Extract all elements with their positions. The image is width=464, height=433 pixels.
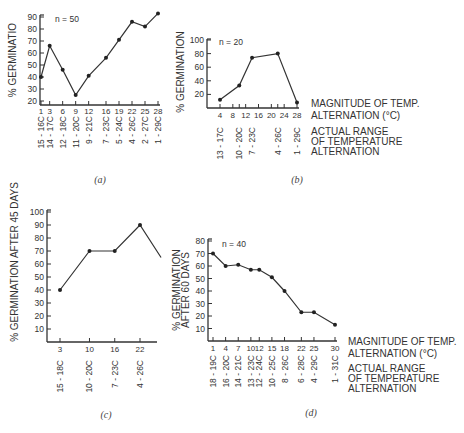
y-tick-label: 30 (28, 84, 38, 94)
range-label: 10 - 20C (234, 127, 244, 160)
x-tick-label: 28 (293, 111, 302, 120)
range-label: 14 - 17C (45, 116, 55, 149)
range-label: 2 - 27C (140, 116, 150, 144)
data-point (87, 74, 91, 78)
x-tick-label: 9 (73, 107, 78, 116)
svg-text:ALTERNATION (°C): ALTERNATION (°C) (348, 348, 437, 359)
axis-side-labels: MAGNITUDE OF TEMP.ALTERNATION (°C)ACTUAL… (348, 336, 457, 394)
y-tick-label: 40 (195, 76, 205, 86)
x-tick-label: 16 (254, 111, 263, 120)
y-axis-label: % GERMINATIO (7, 23, 18, 97)
x-tick-label: 20 (267, 111, 276, 120)
x-tick-label: 28 (154, 107, 163, 116)
range-label: 4 - 26C (135, 360, 145, 388)
data-point (218, 98, 222, 102)
range-label: 1 - 29C (153, 116, 163, 144)
y-tick-label: 70 (196, 249, 206, 259)
y-tick-label: 60 (28, 48, 38, 58)
y-tick-label: 90 (28, 12, 38, 22)
y-tick-label: 80 (195, 49, 205, 59)
y-tick-label: 60 (195, 62, 205, 72)
x-tick-label: 1 (211, 344, 216, 353)
range-label: 14 - 21C (233, 355, 243, 388)
svg-text:MAGNITUDE OF TEMP.: MAGNITUDE OF TEMP. (348, 336, 457, 347)
range-label: 7 - 23C (110, 360, 120, 388)
x-tick-label: 12 (84, 107, 93, 116)
x-tick-label: 15 (267, 344, 276, 353)
x-tick-label: 12 (241, 111, 250, 120)
panel-caption: (d) (305, 407, 317, 419)
range-label: 6 - 28C (296, 355, 306, 383)
sample-size-annotation: n = 20 (219, 37, 243, 47)
sample-size-annotation: n = 40 (222, 239, 246, 249)
y-tick-label: 100 (30, 207, 44, 217)
range-label: 1 - 29C (292, 127, 302, 155)
y-tick-label: 10 (196, 324, 206, 334)
y-tick-label: 70 (28, 36, 38, 46)
x-tick-label: 3 (58, 345, 63, 354)
data-point (143, 25, 147, 29)
data-point (211, 252, 215, 256)
x-tick-label: 22 (128, 107, 137, 116)
y-tick-label: 60 (35, 259, 45, 269)
x-tick-label: 24 (280, 111, 289, 120)
range-label: 12 - 18C (58, 116, 68, 149)
range-label: 18 - 19C (208, 355, 218, 388)
y-tick-label: 80 (28, 24, 38, 34)
range-label: 4 - 26C (273, 127, 283, 155)
sample-size-annotation: n = 50 (55, 14, 79, 24)
data-point (283, 289, 287, 293)
chart-a: 2030405060708090136912161922252815 - 16C… (7, 11, 163, 186)
x-tick-label: 3 (47, 107, 52, 116)
data-point (299, 310, 303, 314)
x-tick-label: 25 (141, 107, 150, 116)
y-tick-label: 10 (35, 324, 45, 334)
data-point (333, 323, 337, 327)
data-point (224, 264, 228, 268)
x-tick-label: 16 (102, 107, 111, 116)
y-tick-label: 40 (35, 285, 45, 295)
panel-caption: (c) (100, 409, 112, 421)
y-axis-label: % GERMINATION AFTER 45 DAYS (9, 182, 20, 342)
data-point (39, 75, 43, 79)
y-tick-label: 20 (35, 311, 45, 321)
chart-c: 102030405060708090100310162215 - 18C10 -… (9, 182, 161, 421)
y-tick-label: 40 (28, 72, 38, 82)
y-tick-label: 90 (35, 220, 45, 230)
y-tick-label: 40 (196, 286, 206, 296)
x-tick-label: 8 (231, 111, 236, 120)
data-point (270, 275, 274, 279)
data-point (237, 84, 241, 88)
x-tick-label: 25 (310, 344, 319, 353)
data-point (58, 288, 62, 292)
data-point (130, 20, 134, 24)
svg-text:ALTERNATION: ALTERNATION (348, 383, 417, 394)
x-tick-label: 30 (331, 344, 340, 353)
y-tick-label: 60 (196, 261, 206, 271)
y-tick-label: 30 (196, 299, 206, 309)
x-tick-label: 19 (115, 107, 124, 116)
y-axis-label: % GERMINATION (175, 31, 186, 112)
range-label: 12 - 24C (254, 355, 264, 388)
x-tick-label: 4 (218, 111, 223, 120)
panel-caption: (b) (291, 174, 303, 186)
chart-d: 10203040506070801471012151822253018 - 19… (171, 236, 340, 419)
range-label: 10 - 25C (267, 355, 277, 388)
range-label: 11 - 20C (71, 116, 81, 148)
svg-text:MAGNITUDE OF TEMP.: MAGNITUDE OF TEMP. (311, 98, 420, 109)
y-tick-label: 20 (196, 311, 206, 321)
x-tick-label: 16 (110, 345, 119, 354)
y-tick-label: 50 (28, 60, 38, 70)
data-line (41, 13, 158, 95)
svg-text:ALTERNATION: ALTERNATION (311, 146, 380, 157)
data-point (104, 56, 108, 60)
y-axis-label-2: AFTER 60 DAYS (180, 252, 191, 328)
data-point (48, 44, 52, 48)
x-tick-label: 6 (60, 107, 65, 116)
y-tick-label: 80 (196, 236, 206, 246)
chart-b: 2040608010048121620242813 - 17C10 - 20C7… (175, 31, 303, 186)
data-point (74, 93, 78, 97)
svg-text:ALTERNATION (°C): ALTERNATION (°C) (311, 110, 400, 121)
range-label: 4 - 29C (309, 355, 319, 383)
range-label: 4 - 26C (127, 116, 137, 144)
